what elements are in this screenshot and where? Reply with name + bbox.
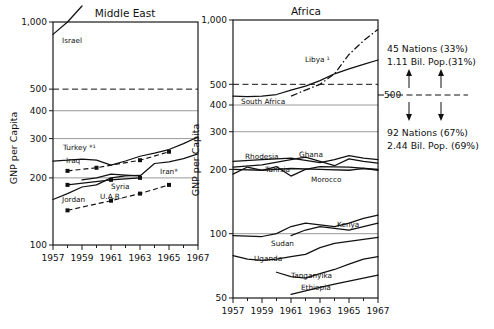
annotation-divider-label: 500 xyxy=(384,90,401,100)
x-tick-1959: 1959 xyxy=(71,253,94,263)
series-tunisia xyxy=(233,167,378,176)
x-tick-1959: 1959 xyxy=(251,306,274,316)
annotation-upper-line2: 1.11 Bil. Pop.(31%) xyxy=(387,56,476,67)
series-label-libya: Libya ¹ xyxy=(305,55,330,64)
y-tick-1000: 1,000 xyxy=(201,15,227,25)
series-label-jordan: Jordan xyxy=(61,195,85,204)
series-label-iraq: Iraq xyxy=(66,156,80,165)
series-label-tunisia: Tunisia xyxy=(264,165,290,174)
y-tick-500: 500 xyxy=(210,80,227,90)
series-label-iran: Iran* xyxy=(160,167,178,176)
y-tick-200: 200 xyxy=(210,165,227,175)
left-y-axis-label: GNP per Capita xyxy=(8,112,19,185)
annotation-arrow-down-right xyxy=(438,102,444,121)
series-label-morocco: Morocco xyxy=(311,175,342,184)
y-tick-100: 100 xyxy=(30,240,47,250)
annotation-block: 45 Nations (33%) 1.11 Bil. Pop.(31%) 500… xyxy=(378,43,479,151)
left-y-tick-labels: 1002003004005001,000 xyxy=(21,17,47,250)
series-south-africa xyxy=(233,60,378,97)
annotation-arrow-up-left xyxy=(406,69,412,88)
series-label-sudan: Sudan xyxy=(271,239,294,248)
series-label-south-africa: South Africa xyxy=(241,97,285,106)
x-tick-1963: 1963 xyxy=(129,253,152,263)
y-tick-100: 100 xyxy=(210,229,227,239)
right-chart-title: Africa xyxy=(291,5,321,17)
x-tick-1963: 1963 xyxy=(309,306,332,316)
x-tick-1967: 1967 xyxy=(187,253,210,263)
right-axis-ticks xyxy=(229,20,378,303)
annotation-arrow-down-left xyxy=(406,102,412,121)
series-label-turkey: Turkey *¹ xyxy=(62,143,96,152)
x-tick-1961: 1961 xyxy=(280,306,303,316)
y-tick-300: 300 xyxy=(30,134,47,144)
series-label-syria: Syria xyxy=(111,182,129,191)
left-axis-ticks xyxy=(49,22,198,250)
right-y-axis-label: GNP per Capita xyxy=(190,124,201,197)
right-chart-africa: Africa GNP per Capita 501002003004005001… xyxy=(190,5,389,316)
series-label-uar: U.A.R. xyxy=(100,192,122,201)
annotation-arrow-up-right xyxy=(438,69,444,88)
figure-canvas: Middle East GNP per Capita 1002003004005… xyxy=(0,0,494,329)
series-label-rhodesia: Rhodesia xyxy=(245,152,279,161)
left-x-tick-labels: 195719591961196319651967 xyxy=(42,253,210,263)
left-chart-middle-east: Middle East GNP per Capita 1002003004005… xyxy=(8,6,209,263)
series-label-ethiopia: Ethiopia xyxy=(301,283,331,292)
x-tick-1961: 1961 xyxy=(100,253,123,263)
series-label-tanganyika: Tanganyika xyxy=(290,271,332,280)
series-label-ghana: Ghana xyxy=(299,150,323,159)
y-tick-200: 200 xyxy=(30,173,47,183)
annotation-lower-line1: 92 Nations (67%) xyxy=(387,127,468,138)
series-israel xyxy=(53,6,82,34)
y-tick-50: 50 xyxy=(216,293,228,303)
y-tick-300: 300 xyxy=(210,127,227,137)
x-tick-1965: 1965 xyxy=(158,253,181,263)
x-tick-1965: 1965 xyxy=(338,306,361,316)
x-tick-1957: 1957 xyxy=(222,306,245,316)
annotation-lower-line2: 2.44 Bil. Pop. (69%) xyxy=(387,140,479,151)
annotation-upper-line1: 45 Nations (33%) xyxy=(387,43,468,54)
right-x-tick-labels: 195719591961196319651967 xyxy=(222,306,390,316)
left-plot-frame xyxy=(53,22,198,245)
y-tick-400: 400 xyxy=(30,106,47,116)
series-label-uganda: Uganda xyxy=(254,254,282,263)
y-tick-1000: 1,000 xyxy=(21,17,47,27)
series-label-israel: Israel xyxy=(62,36,82,45)
y-tick-500: 500 xyxy=(30,84,47,94)
x-tick-1967: 1967 xyxy=(367,306,390,316)
series-label-kenya: Kenya xyxy=(337,220,359,229)
x-tick-1957: 1957 xyxy=(42,253,65,263)
chart-figure: Middle East GNP per Capita 1002003004005… xyxy=(0,0,494,329)
y-tick-400: 400 xyxy=(210,100,227,110)
left-chart-title: Middle East xyxy=(95,7,156,19)
